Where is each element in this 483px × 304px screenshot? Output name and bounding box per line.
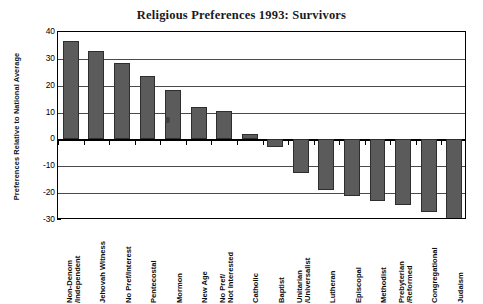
x-axis-label: Episcopal <box>338 221 364 304</box>
x-axis-label-line: No Pref/Interest <box>124 246 133 303</box>
bar <box>114 63 130 140</box>
chart-title: Religious Preferences 1993: Survivors <box>0 8 483 23</box>
x-axis-label: Prebyterian/Reformed <box>389 221 415 304</box>
x-axis-label: No Pref/Not Interested <box>210 221 236 304</box>
x-axis-label-line: Judaism <box>456 272 465 303</box>
x-axis-label-line: /Universalist <box>304 258 312 303</box>
bar <box>140 76 156 139</box>
bar <box>344 139 360 195</box>
x-axis-label: Congregational <box>415 221 441 304</box>
x-axis-label-line: New Age <box>200 271 209 303</box>
gridline-30 <box>58 59 465 60</box>
bar <box>63 41 79 139</box>
x-tick-mark <box>314 139 315 145</box>
bar <box>191 107 207 139</box>
bar <box>446 139 462 219</box>
bar <box>242 134 258 139</box>
x-axis-label-line: Baptist <box>277 277 286 303</box>
x-tick-mark <box>365 139 366 145</box>
y-tick-label-30: 30 <box>21 53 55 63</box>
x-axis-label: Pentecostal <box>134 221 160 304</box>
x-tick-mark <box>211 139 212 145</box>
x-axis-label: Non-Denom/Independent <box>57 221 83 304</box>
x-axis-label: Lutheran <box>313 221 339 304</box>
x-axis-label: Baptist <box>262 221 288 304</box>
x-tick-mark <box>416 139 417 145</box>
x-axis-label: Jehovah Witness <box>83 221 109 304</box>
bar <box>88 51 104 140</box>
x-axis-label: Judaism <box>440 221 466 304</box>
x-axis-label-line: Pentecostal <box>149 260 158 303</box>
y-tick-mark--30 <box>57 219 61 220</box>
x-tick-mark <box>160 139 161 145</box>
x-tick-mark <box>135 139 136 145</box>
x-axis-label-line: Methodist <box>379 267 388 303</box>
x-axis-label: No Pref/Interest <box>108 221 134 304</box>
scan-speck-artifact <box>165 117 170 123</box>
x-axis-label: New Age <box>185 221 211 304</box>
x-axis-label: Mormon <box>159 221 185 304</box>
y-axis-tick-labels: 403020100-10-20-30 <box>19 31 55 219</box>
bar <box>395 139 411 205</box>
y-tick-label-0: 0 <box>21 133 55 143</box>
x-axis-label-line: Congregational <box>430 247 439 303</box>
x-axis-label-line: Unitarian <box>295 270 304 303</box>
x-tick-mark <box>186 139 187 145</box>
x-axis-label-line: Jehovah Witness <box>98 241 107 303</box>
chart-figure: Religious Preferences 1993: Survivors Pr… <box>0 0 483 304</box>
x-tick-mark <box>58 139 59 145</box>
x-tick-mark <box>84 139 85 145</box>
x-axis-label-line: Mormon <box>175 273 184 303</box>
plot-area <box>57 31 466 219</box>
y-tick-label--20: -20 <box>21 187 55 197</box>
x-axis-label: Catholic <box>236 221 262 304</box>
x-tick-mark <box>109 139 110 145</box>
bar <box>216 111 232 139</box>
bar <box>267 139 283 147</box>
x-axis-label-line: Episcopal <box>354 267 363 303</box>
x-axis-label: Unitarian/Universalist <box>287 221 313 304</box>
x-axis-label-line: Non-Denom <box>65 260 74 303</box>
y-tick-label--30: -30 <box>21 214 55 224</box>
bar <box>370 139 386 201</box>
x-tick-mark <box>339 139 340 145</box>
bar <box>293 139 309 173</box>
bar <box>421 139 437 212</box>
x-tick-mark <box>288 139 289 145</box>
x-axis-label: Methodist <box>364 221 390 304</box>
x-axis-category-labels: Non-Denom/IndependentJehovah WitnessNo P… <box>57 221 466 304</box>
y-tick-label-40: 40 <box>21 26 55 36</box>
bar <box>165 90 181 140</box>
x-axis-label-line: Not Interested <box>227 252 235 303</box>
x-tick-mark <box>441 139 442 145</box>
y-tick-label-10: 10 <box>21 107 55 117</box>
x-tick-mark <box>237 139 238 145</box>
x-axis-label-line: Catholic <box>251 273 260 303</box>
x-tick-mark <box>263 139 264 145</box>
x-axis-label-line: /Reformed <box>406 261 414 303</box>
x-tick-mark <box>390 139 391 145</box>
x-axis-label-line: Lutheran <box>328 271 337 304</box>
y-tick-label-20: 20 <box>21 80 55 90</box>
y-tick-label--10: -10 <box>21 160 55 170</box>
bar <box>318 139 334 190</box>
x-axis-label-line: /Independent <box>74 256 82 303</box>
